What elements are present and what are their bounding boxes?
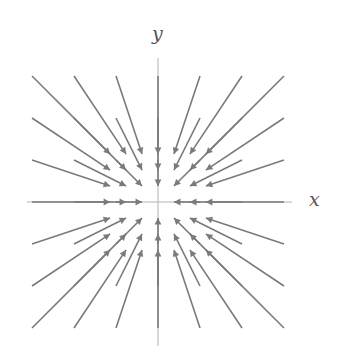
vector-field-figure: x y xyxy=(0,0,341,352)
field-arrow xyxy=(116,250,143,328)
arrow-shaft xyxy=(74,250,126,328)
field-arrow xyxy=(206,118,284,170)
field-arrow xyxy=(206,234,284,286)
field-arrow xyxy=(173,250,200,328)
arrow-shaft xyxy=(190,250,242,328)
field-arrow xyxy=(116,76,143,154)
field-arrow xyxy=(173,76,200,154)
arrow-shaft xyxy=(74,76,126,154)
arrow-head xyxy=(136,199,143,206)
arrow-head xyxy=(155,180,162,187)
field-arrow xyxy=(155,250,162,328)
arrow-head xyxy=(206,199,213,206)
field-arrow xyxy=(32,217,110,244)
y-axis-label: y xyxy=(152,24,163,43)
field-arrow xyxy=(190,76,242,154)
arrow-shaft xyxy=(206,118,284,170)
field-arrow xyxy=(206,160,284,187)
field-arrow xyxy=(190,250,242,328)
field-arrow xyxy=(32,234,110,286)
field-arrow xyxy=(32,250,110,328)
arrow-shaft xyxy=(206,234,284,286)
vector-field-plot xyxy=(0,0,341,352)
arrow-shaft xyxy=(32,250,110,328)
arrow-shaft xyxy=(206,250,284,328)
field-arrow xyxy=(32,118,110,170)
arrow-head xyxy=(155,234,162,241)
arrow-shaft xyxy=(32,118,110,170)
arrow-shaft xyxy=(32,234,110,286)
arrow-head xyxy=(174,199,181,206)
arrow-head xyxy=(155,218,162,225)
field-arrow xyxy=(206,199,284,206)
field-arrow xyxy=(206,250,284,328)
field-arrow xyxy=(32,160,110,187)
field-arrow xyxy=(206,217,284,244)
arrow-head xyxy=(155,250,162,257)
arrow-shaft xyxy=(190,76,242,154)
field-arrow xyxy=(74,250,126,328)
x-axis-label: x xyxy=(309,190,320,209)
field-arrow xyxy=(74,76,126,154)
arrow-head xyxy=(190,199,197,206)
